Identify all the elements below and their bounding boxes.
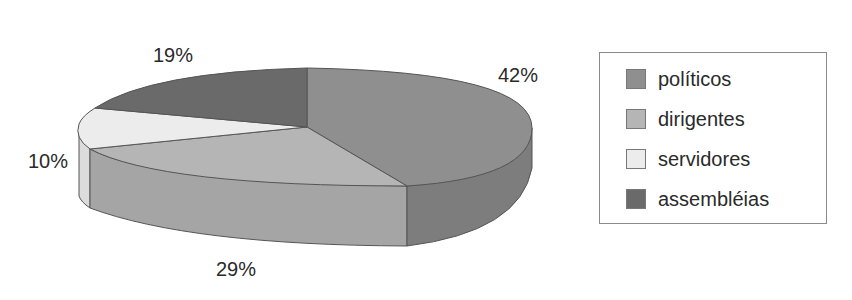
legend-item-dirigentes: dirigentes bbox=[626, 107, 745, 131]
legend-swatch-politicos bbox=[626, 69, 646, 89]
legend-label: servidores bbox=[658, 148, 750, 171]
legend-label: políticos bbox=[658, 68, 731, 91]
data-label-politicos: 42% bbox=[498, 64, 538, 87]
legend-swatch-dirigentes bbox=[626, 109, 646, 129]
legend-item-assembleias: assembléias bbox=[626, 187, 769, 211]
legend-swatch-servidores bbox=[626, 149, 646, 169]
data-label-assembleias: 19% bbox=[153, 44, 193, 67]
data-label-servidores: 10% bbox=[28, 150, 68, 173]
legend-label: assembléias bbox=[658, 188, 769, 211]
legend-item-servidores: servidores bbox=[626, 147, 750, 171]
data-label-dirigentes: 29% bbox=[216, 258, 256, 281]
legend-item-politicos: políticos bbox=[626, 67, 731, 91]
legend-label: dirigentes bbox=[658, 108, 745, 131]
chart-legend: políticos dirigentes servidores assemblé… bbox=[599, 52, 827, 224]
legend-swatch-assembleias bbox=[626, 189, 646, 209]
